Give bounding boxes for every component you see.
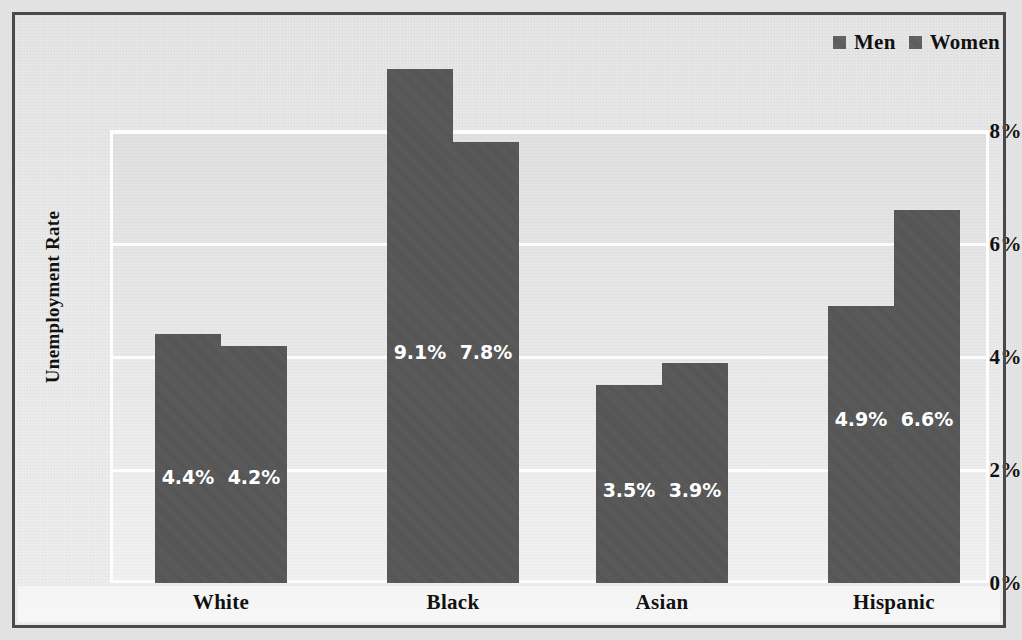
figure-border xyxy=(12,12,1006,628)
chart-figure: 8%6%4%2%0% Unemployment Rate 4.4%4.2%9.1… xyxy=(0,0,1022,640)
